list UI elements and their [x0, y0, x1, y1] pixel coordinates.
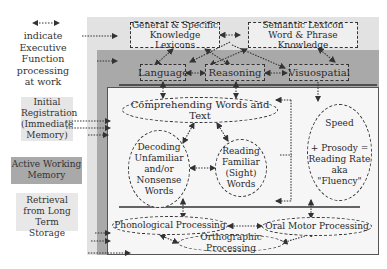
- semantic-lexicon-box: Semantic Lexicon Word & Phrase Knowledge: [248, 22, 358, 48]
- comprehending-words-ellipse: Comprehending Words and Text: [122, 97, 278, 123]
- familiar-words-ellipse: Reading Familiar (Sight) Words: [215, 139, 267, 197]
- general-knowledge-lexicons-box: General & Specific Knowledge Lexicons: [130, 22, 220, 48]
- fluency-ellipse: Speed + Prosody = Reading Rate aka "Flue…: [307, 104, 372, 201]
- language-box: Language: [140, 64, 186, 81]
- visuospatial-box: Visuospatial: [289, 64, 349, 81]
- decoding-ellipse: Decoding Unfamiliar and/or Nonsense Word…: [128, 130, 190, 208]
- reasoning-box: Reasoning: [205, 64, 265, 81]
- orthographic-processing-ellipse: Orthographic Processing: [178, 234, 284, 252]
